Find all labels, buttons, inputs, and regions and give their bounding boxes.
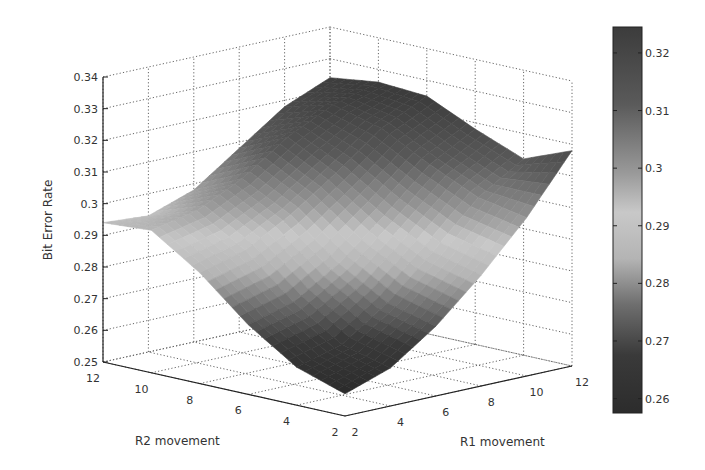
z-tick-label: 0.25 <box>74 356 99 369</box>
z-tick-label: 0.33 <box>74 103 99 116</box>
r2-tick-label: 4 <box>283 415 290 428</box>
z-tick-label: 0.28 <box>74 261 99 274</box>
y-axis-label: R2 movement <box>135 434 220 448</box>
r1-tick-label: 10 <box>530 386 544 399</box>
colorbar-tick-label: 0.28 <box>645 277 670 290</box>
r2-tick-label: 10 <box>134 383 148 396</box>
z-tick-label: 0.34 <box>74 71 99 84</box>
colorbar-tick-label: 0.27 <box>645 335 670 348</box>
r2-tick-label: 8 <box>186 394 193 407</box>
z-tick-label: 0.26 <box>74 324 99 337</box>
r2-tick-label: 2 <box>332 426 339 439</box>
r2-tick-label: 12 <box>86 372 100 385</box>
z-tick-label: 0.3 <box>81 198 99 211</box>
r1-tick-label: 12 <box>575 376 589 389</box>
z-tick-label: 0.29 <box>74 229 99 242</box>
z-tick-label: 0.27 <box>74 293 99 306</box>
colorbar-tick-label: 0.32 <box>645 47 670 60</box>
surface-plot: 0.250.260.270.280.290.30.310.320.330.342… <box>0 0 705 470</box>
z-tick-label: 0.32 <box>74 134 99 147</box>
colorbar-gradient <box>613 27 642 413</box>
colorbar-tick-label: 0.31 <box>645 105 670 118</box>
r1-tick-label: 4 <box>397 416 404 429</box>
x-axis-label: R1 movement <box>460 435 545 449</box>
z-tick-label: 0.31 <box>74 166 99 179</box>
colorbar: 0.320.310.30.290.280.270.26 <box>613 27 670 413</box>
colorbar-tick-label: 0.3 <box>645 162 663 175</box>
r1-tick-label: 8 <box>488 396 495 409</box>
r1-tick-label: 2 <box>352 426 359 439</box>
colorbar-tick-label: 0.26 <box>645 393 670 406</box>
r1-tick-label: 6 <box>442 406 449 419</box>
r2-tick-label: 6 <box>235 404 242 417</box>
z-axis-label: Bit Error Rate <box>41 180 55 261</box>
colorbar-tick-label: 0.29 <box>645 220 670 233</box>
